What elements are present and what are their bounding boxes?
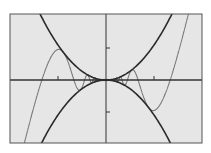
function-plot xyxy=(0,0,211,153)
